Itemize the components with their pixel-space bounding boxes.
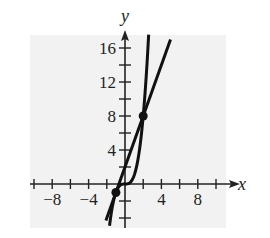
x-axis-label: x <box>237 174 246 194</box>
chart: −8−448481216 x y <box>0 0 270 238</box>
x-tick-label: −8 <box>43 190 61 209</box>
x-tick-label: 4 <box>157 190 166 209</box>
intersection-point <box>139 112 148 121</box>
x-tick-label: −4 <box>80 190 99 209</box>
y-tick-label: 4 <box>108 141 117 160</box>
y-tick-label: 16 <box>99 39 116 58</box>
y-axis-label: y <box>119 6 129 26</box>
intersection-point <box>111 188 120 197</box>
y-tick-label: 12 <box>99 73 116 92</box>
x-tick-label: 8 <box>194 190 203 209</box>
y-tick-label: 8 <box>108 107 117 126</box>
